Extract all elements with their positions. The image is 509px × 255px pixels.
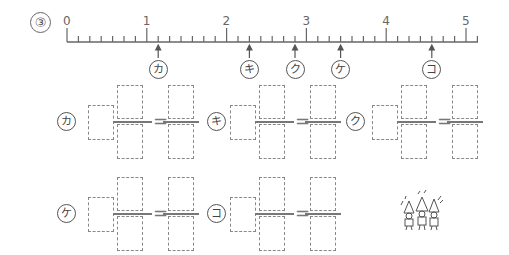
improper-numerator-input[interactable] — [310, 85, 336, 119]
tick-label-1: 1 — [143, 14, 151, 28]
fraction-bar — [397, 121, 436, 123]
denominator-input[interactable] — [117, 124, 143, 159]
numerator-input[interactable] — [259, 177, 285, 211]
tick-label-0: 0 — [63, 14, 71, 28]
numerator-input[interactable] — [117, 85, 143, 119]
whole-number-input[interactable] — [88, 105, 114, 140]
improper-denominator-input[interactable] — [310, 216, 336, 251]
tick-label-5: 5 — [462, 14, 470, 28]
improper-denominator-input[interactable] — [168, 124, 194, 159]
whole-number-input[interactable] — [230, 197, 256, 232]
denominator-input[interactable] — [259, 216, 285, 251]
answer-label: コ — [207, 204, 226, 223]
denominator-input[interactable] — [401, 124, 427, 159]
answer-label: キ — [207, 112, 226, 131]
fraction-bar — [163, 213, 199, 215]
fraction-bar — [113, 121, 152, 123]
fraction-bar — [447, 121, 483, 123]
tick-label-4: 4 — [382, 14, 390, 28]
answer-label: ク — [346, 112, 365, 131]
fraction-bar — [163, 121, 199, 123]
whole-number-input[interactable] — [372, 105, 398, 140]
improper-denominator-input[interactable] — [168, 216, 194, 251]
whole-number-input[interactable] — [88, 197, 114, 232]
fraction-bar — [255, 121, 294, 123]
marker-label-4: ケ — [331, 60, 350, 79]
improper-numerator-input[interactable] — [168, 177, 194, 211]
denominator-input[interactable] — [259, 124, 285, 159]
improper-denominator-input[interactable] — [452, 124, 478, 159]
improper-numerator-input[interactable] — [452, 85, 478, 119]
marker-label-1: カ — [149, 60, 168, 79]
fraction-bar — [255, 213, 294, 215]
improper-denominator-input[interactable] — [310, 124, 336, 159]
answer-label: カ — [57, 112, 76, 131]
tick-label-3: 3 — [302, 14, 310, 28]
numerator-input[interactable] — [401, 85, 427, 119]
answer-label: ケ — [57, 204, 76, 223]
fraction-bar — [305, 121, 341, 123]
fraction-bar — [305, 213, 341, 215]
denominator-input[interactable] — [117, 216, 143, 251]
marker-label-3: ク — [286, 60, 305, 79]
tick-label-2: 2 — [223, 14, 231, 28]
marker-label-2: キ — [240, 60, 259, 79]
improper-numerator-input[interactable] — [310, 177, 336, 211]
improper-numerator-input[interactable] — [168, 85, 194, 119]
fraction-bar — [113, 213, 152, 215]
numerator-input[interactable] — [259, 85, 285, 119]
whole-number-input[interactable] — [230, 105, 256, 140]
numerator-input[interactable] — [117, 177, 143, 211]
